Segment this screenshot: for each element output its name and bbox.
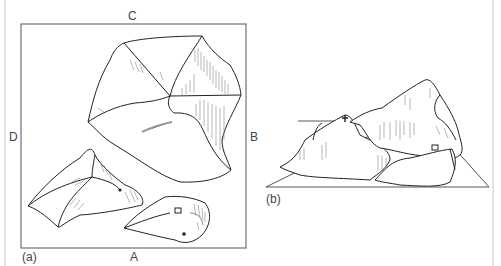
side-label-bottom: A: [130, 251, 138, 263]
cross-marker-plan: [118, 188, 121, 191]
large-hill-hachures: [98, 48, 228, 150]
side-label-left: D: [9, 131, 18, 143]
dot-marker: [182, 232, 186, 236]
left-hill: [28, 149, 143, 227]
panel-b-caption: (b): [266, 193, 281, 205]
building-marker-plan: [175, 208, 181, 213]
large-hill: [88, 36, 241, 182]
panel-a-caption: (a): [22, 251, 37, 263]
side-label-top: C: [128, 10, 137, 22]
side-label-right: B: [250, 131, 258, 143]
bottom-hill: [124, 196, 210, 242]
